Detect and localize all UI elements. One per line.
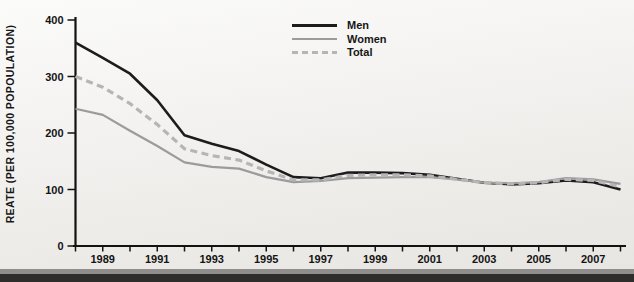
y-tick-label: 100 — [45, 184, 63, 196]
legend-label-women: Women — [347, 33, 387, 47]
legend-line-total-icon — [292, 51, 337, 54]
x-tick-label: 2003 — [472, 253, 496, 265]
legend-item-men: Men — [292, 19, 387, 33]
legend: Men Women Total — [292, 19, 387, 60]
x-tick-label: 2001 — [418, 253, 442, 265]
legend-item-women: Women — [292, 33, 387, 47]
legend-line-men-icon — [292, 24, 337, 27]
series-line-men — [76, 43, 621, 190]
x-tick-label: 1995 — [254, 253, 278, 265]
x-tick-label: 2005 — [527, 253, 551, 265]
legend-item-total: Total — [292, 46, 387, 60]
y-tick-label: 400 — [45, 14, 63, 26]
legend-line-women-icon — [292, 38, 337, 40]
x-tick-label: 1997 — [309, 253, 333, 265]
y-tick-label: 200 — [45, 127, 63, 139]
x-tick-label: 1999 — [363, 253, 387, 265]
x-tick-label: 1991 — [145, 253, 169, 265]
x-tick-label: 1993 — [200, 253, 224, 265]
x-tick-label: 2007 — [581, 253, 605, 265]
series-line-total — [76, 77, 621, 187]
legend-label-total: Total — [347, 46, 372, 60]
chart-canvas: REATE (PER 100,000 POPOULATION) 01002003… — [0, 0, 634, 282]
bottom-bar-dark — [0, 274, 634, 282]
y-tick-label: 300 — [45, 71, 63, 83]
y-tick-label: 0 — [57, 240, 63, 252]
legend-label-men: Men — [347, 19, 369, 33]
x-tick-label: 1989 — [91, 253, 115, 265]
